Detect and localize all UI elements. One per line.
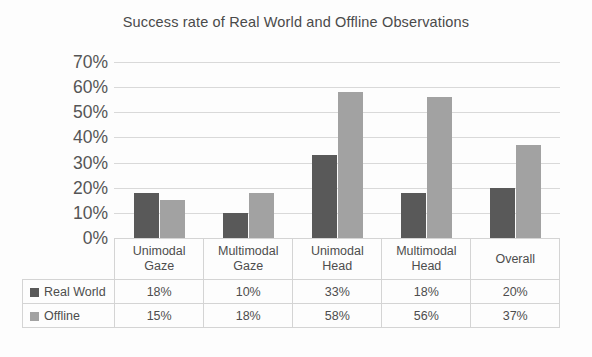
bar[interactable]: [134, 193, 159, 238]
table-cell-value: 18%: [115, 280, 204, 304]
y-axis-tick-label: 40%: [30, 127, 108, 147]
bar[interactable]: [516, 145, 541, 238]
bar[interactable]: [249, 193, 274, 238]
y-axis-tick-label: 30%: [30, 153, 108, 173]
y-axis-tick-label: 20%: [30, 178, 108, 198]
bar[interactable]: [490, 188, 515, 238]
table-column-header-line: Gaze: [204, 259, 292, 274]
y-axis-tick-label: 60%: [30, 77, 108, 97]
table-column-header-line: Unimodal: [115, 244, 203, 259]
legend-label: Real World: [44, 285, 106, 299]
table-column-header: MultimodalGaze: [204, 239, 293, 280]
table-cell-value: 37%: [471, 304, 560, 328]
table-cell-value: 33%: [293, 280, 382, 304]
y-axis: 70%60%50%40%30%20%10%0%: [30, 50, 108, 250]
bar[interactable]: [223, 213, 248, 238]
data-table: UnimodalGazeMultimodalGazeUnimodalHeadMu…: [22, 238, 560, 328]
table-column-header-line: Overall: [471, 252, 559, 267]
table-column-header: UnimodalGaze: [115, 239, 204, 280]
table-corner-cell: [23, 239, 115, 280]
table-cell-value: 18%: [382, 280, 471, 304]
table-column-header-line: Multimodal: [382, 244, 470, 259]
table-body: Real World18%10%33%18%20%Offline15%18%58…: [23, 280, 560, 328]
bar[interactable]: [312, 155, 337, 238]
bar-group: [471, 62, 560, 238]
table-row: Real World18%10%33%18%20%: [23, 280, 560, 304]
table-cell-value: 56%: [382, 304, 471, 328]
legend-swatch-icon: [30, 288, 39, 297]
bar[interactable]: [427, 97, 452, 238]
table-header-row: UnimodalGazeMultimodalGazeUnimodalHeadMu…: [23, 239, 560, 280]
table-column-header-line: Multimodal: [204, 244, 292, 259]
legend-swatch-icon: [30, 312, 39, 321]
bar[interactable]: [160, 200, 185, 238]
bar[interactable]: [401, 193, 426, 238]
bars-layer: [114, 62, 560, 238]
bar-group: [114, 62, 203, 238]
legend-label: Offline: [44, 309, 80, 323]
table-row: Offline15%18%58%56%37%: [23, 304, 560, 328]
bar-group: [292, 62, 381, 238]
bar-group: [203, 62, 292, 238]
chart-title: Success rate of Real World and Offline O…: [0, 14, 592, 30]
legend-entry[interactable]: Real World: [23, 280, 115, 304]
table-cell-value: 10%: [204, 280, 293, 304]
bar[interactable]: [338, 92, 363, 238]
table-column-header-line: Head: [382, 259, 470, 274]
y-axis-tick-label: 50%: [30, 102, 108, 122]
y-axis-tick-label: 10%: [30, 203, 108, 223]
bar-group: [382, 62, 471, 238]
table-column-header-line: Gaze: [115, 259, 203, 274]
table-column-header: Overall: [471, 239, 560, 280]
table-cell-value: 15%: [115, 304, 204, 328]
table-cell-value: 20%: [471, 280, 560, 304]
table-column-header-line: Unimodal: [293, 244, 381, 259]
table-column-header-line: Head: [293, 259, 381, 274]
table-column-header: MultimodalHead: [382, 239, 471, 280]
y-axis-tick-label: 70%: [30, 52, 108, 72]
chart-container: Success rate of Real World and Offline O…: [0, 0, 592, 357]
legend-entry[interactable]: Offline: [23, 304, 115, 328]
table-column-header: UnimodalHead: [293, 239, 382, 280]
table-cell-value: 18%: [204, 304, 293, 328]
table-cell-value: 58%: [293, 304, 382, 328]
